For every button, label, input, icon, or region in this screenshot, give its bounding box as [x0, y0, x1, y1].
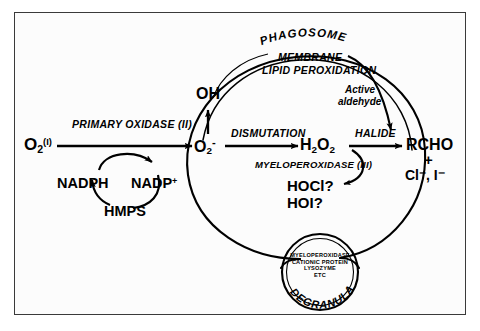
label-active-aldehyde-line2: aldehyde [338, 97, 381, 107]
diagram-page: O2(I) PRIMARY OXIDASE (II) NADPH NADP+ H… [0, 0, 480, 331]
species-nadp-plus: NADP+ [131, 176, 177, 191]
species-nadph: NADPH [57, 176, 109, 191]
species-halide-ions: Cl⁻, I⁻ [405, 168, 445, 182]
granule-contents: MYELOPEROXIDASE CATIONIC PROTEIN LYSOZYM… [280, 252, 360, 278]
reaction-primary-oxidase: PRIMARY OXIDASE (II) [72, 119, 192, 130]
granule-item-myeloperoxidase: MYELOPEROXIDASE [280, 252, 360, 259]
granule-item-cationic-protein: CATIONIC PROTEIN [280, 259, 360, 266]
species-oxygen-input: O2(I) [24, 136, 52, 154]
species-hydrogen-peroxide: H2O2 [300, 137, 335, 155]
granule-item-lysozyme: LYSOZYME [280, 265, 360, 272]
reaction-dismutation: DISMUTATION [231, 128, 306, 139]
lipid-peroxidation-curve [213, 54, 268, 98]
plus-sign: + [424, 152, 433, 167]
species-hypoiodous-acid: HOI? [287, 195, 323, 210]
species-superoxide: O2- [194, 137, 216, 156]
label-active-aldehyde-line1: Active [345, 85, 375, 95]
species-hydroxyl-radical: OH [196, 86, 220, 102]
species-hmps: HMPS [104, 204, 146, 219]
label-lipid-peroxidation: LIPID PEROXIDATION [262, 65, 376, 76]
reaction-halide: HALIDE [355, 128, 396, 139]
label-membrane: MEMBRANE [278, 52, 342, 63]
species-hypochlorous-acid: HOCl? [287, 178, 334, 193]
reaction-myeloperoxidase: MYELOPEROXIDASE (III) [255, 160, 372, 170]
diagram-vector-layer [0, 0, 480, 331]
granule-item-etc: ETC [280, 272, 360, 279]
